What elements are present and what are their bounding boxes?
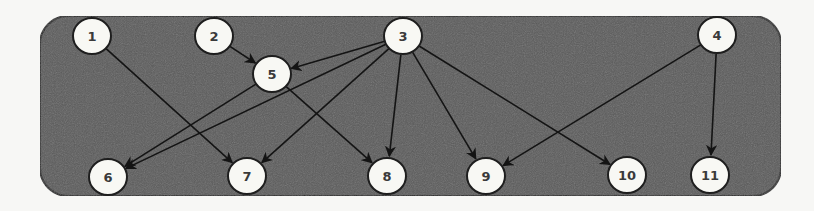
node-label: 7 <box>242 169 251 184</box>
node-label: 10 <box>618 168 636 183</box>
node-8: 8 <box>368 158 406 194</box>
dependency-graph: 1234567891011 <box>0 0 814 211</box>
node-11: 11 <box>691 157 729 193</box>
node-label: 1 <box>87 29 96 44</box>
node-2: 2 <box>195 18 233 54</box>
node-7: 7 <box>228 158 266 194</box>
node-label: 5 <box>267 67 276 82</box>
node-10: 10 <box>608 157 646 193</box>
node-label: 11 <box>701 168 719 183</box>
node-5: 5 <box>253 56 291 92</box>
node-label: 4 <box>712 28 721 43</box>
node-4: 4 <box>698 17 736 53</box>
node-label: 6 <box>103 170 112 185</box>
node-label: 8 <box>382 169 391 184</box>
node-9: 9 <box>467 158 505 194</box>
node-label: 9 <box>481 169 490 184</box>
node-1: 1 <box>73 18 111 54</box>
node-label: 2 <box>209 29 218 44</box>
node-6: 6 <box>89 159 127 195</box>
node-label: 3 <box>398 29 407 44</box>
node-3: 3 <box>384 18 422 54</box>
